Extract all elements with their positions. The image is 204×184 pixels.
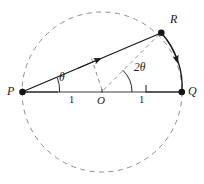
dashed-helper-O-to-chord (92, 59, 103, 91)
point-dot-Q (179, 89, 186, 96)
angle-arc-two-theta-at-O (123, 70, 132, 92)
point-label-P: P (7, 85, 14, 97)
chord-PR-direction-arrow (78, 58, 101, 68)
dashed-radius-O-to-R (104, 35, 160, 91)
circle-geometry-figure: P Q R O θ 2θ 1 1 (0, 0, 204, 184)
point-label-Q: Q (188, 85, 197, 97)
point-dot-P (19, 89, 26, 96)
angle-label-two-theta: 2θ (134, 62, 145, 74)
arc-R-to-Q-direction-arrow (161, 33, 177, 63)
point-label-O: O (97, 95, 105, 106)
figure-canvas (0, 0, 204, 184)
angle-two-theta-symbol: θ (140, 61, 146, 73)
point-label-R: R (170, 13, 177, 25)
length-label-OQ: 1 (139, 95, 144, 106)
angle-label-theta: θ (59, 72, 65, 84)
length-label-PO: 1 (69, 95, 74, 106)
point-dot-R (158, 30, 165, 37)
